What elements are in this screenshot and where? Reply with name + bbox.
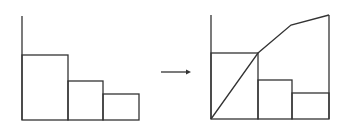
arrow-head [186,70,191,75]
left-bar-1 [22,55,68,120]
right-histogram-with-cumulative-line [211,15,329,119]
right-bar-2 [258,80,292,119]
cumulative-line [211,15,329,119]
histogram-to-cumulative-diagram [0,0,350,131]
right-bar-3 [292,93,329,119]
transform-arrow-icon [161,70,191,75]
left-bar-3 [103,94,139,120]
left-histogram [22,16,139,120]
left-bar-2 [68,81,103,120]
